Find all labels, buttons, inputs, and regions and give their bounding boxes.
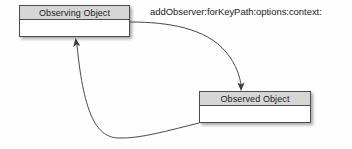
register-edge-line bbox=[130, 22, 241, 85]
register-edge-label: addObserver:forKeyPath:options:context: bbox=[150, 6, 322, 17]
node-observing-object[interactable]: Observing Object bbox=[19, 5, 130, 37]
node-observing-object-header: Observing Object bbox=[20, 6, 129, 20]
node-observed-object-body bbox=[200, 106, 310, 122]
node-observed-object[interactable]: Observed Object bbox=[199, 91, 311, 123]
node-observed-object-header: Observed Object bbox=[200, 92, 310, 106]
node-observing-object-body bbox=[20, 20, 129, 36]
register-edge-arrowhead bbox=[237, 83, 244, 92]
notify-edge-arrowhead bbox=[73, 38, 80, 47]
notify-edge-line bbox=[77, 45, 199, 138]
diagram-canvas: Observing Object Observed Object addObse… bbox=[0, 0, 352, 149]
